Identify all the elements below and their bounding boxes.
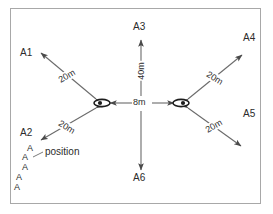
legend-leader-line	[33, 152, 43, 157]
figure-container: A1 A2 A3 A4 A5 A6 20m 20m 20m 20m 40m 8m…	[0, 0, 273, 214]
label-a1: A1	[20, 47, 32, 58]
label-a3: A3	[133, 21, 145, 32]
legend-marker-5: A	[14, 182, 20, 192]
legend-caption: position	[45, 146, 79, 157]
right-eye-marker	[173, 99, 189, 106]
legend-marker-3: A	[22, 162, 28, 172]
label-a6: A6	[133, 172, 145, 183]
dimension-vertical-distance: 40m	[136, 61, 146, 81]
legend-marker-2: A	[22, 152, 28, 162]
left-eye-marker	[94, 99, 110, 106]
dimension-sensor-separation: 8m	[132, 97, 147, 107]
label-a2: A2	[20, 127, 32, 138]
legend-marker-4: A	[16, 172, 22, 182]
label-a4: A4	[243, 32, 255, 43]
label-a5: A5	[243, 108, 255, 119]
